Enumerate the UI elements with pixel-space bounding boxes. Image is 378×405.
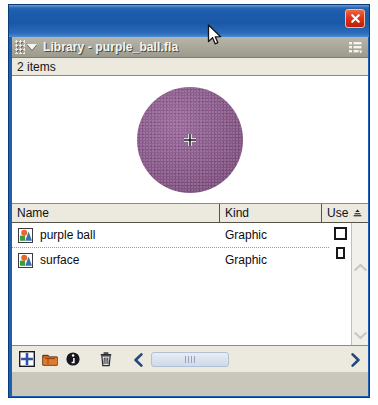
row-kind-label: Graphic — [220, 228, 322, 242]
use-checkbox[interactable] — [334, 227, 347, 240]
scrollbar-thumb-grip — [185, 356, 196, 363]
column-header-name[interactable]: Name — [12, 204, 220, 222]
chevron-right-icon — [350, 353, 361, 367]
vertical-scrollbar[interactable] — [351, 223, 368, 345]
new-symbol-button[interactable] — [19, 351, 35, 367]
library-list-header: Name Kind Use — [12, 204, 368, 223]
scroll-down-button[interactable] — [352, 327, 368, 343]
row-kind-label: Graphic — [220, 253, 322, 267]
panel-header[interactable]: Library - purple_ball.fla — [12, 37, 368, 58]
new-symbol-plus-icon — [19, 351, 35, 367]
chevron-up-icon — [354, 263, 367, 272]
library-panel: Library - purple_ball.fla — [12, 37, 368, 396]
column-header-use[interactable]: Use — [322, 204, 366, 222]
trash-can-icon — [98, 351, 114, 367]
horizontal-scroll-thumb[interactable] — [151, 352, 229, 367]
sort-ascending-icon[interactable] — [353, 209, 362, 218]
library-rows: purple ball Graphic — [12, 223, 351, 345]
item-count-strip: 2 items — [12, 58, 368, 76]
delete-button[interactable] — [98, 351, 114, 367]
application-window: Library - purple_ball.fla — [8, 4, 370, 398]
chevron-left-icon — [133, 353, 144, 367]
window-body: Library - purple_ball.fla — [12, 37, 368, 396]
column-header-name-label: Name — [17, 206, 49, 220]
panel-title: Library - purple_ball.fla — [43, 40, 178, 54]
properties-button[interactable] — [65, 351, 81, 367]
row-name-cell: surface — [12, 253, 220, 268]
table-row[interactable]: surface Graphic — [12, 248, 351, 273]
column-header-kind[interactable]: Kind — [220, 204, 322, 222]
drag-grip-icon[interactable] — [15, 40, 25, 54]
close-x-icon — [350, 13, 361, 24]
column-header-use-label: Use — [327, 206, 348, 220]
library-list-body: purple ball Graphic — [12, 223, 368, 345]
use-column-cells — [329, 223, 351, 345]
collapse-triangle-icon[interactable] — [27, 44, 37, 50]
new-folder-icon — [42, 351, 58, 367]
row-name-label: purple ball — [40, 228, 95, 242]
scroll-right-button[interactable] — [347, 351, 364, 368]
horizontal-scroll-track[interactable] — [147, 352, 347, 367]
symbol-preview-pane[interactable] — [12, 76, 368, 204]
graphic-symbol-icon — [18, 228, 33, 243]
chevron-down-icon — [354, 331, 367, 340]
horizontal-scrollbar[interactable] — [130, 350, 364, 369]
item-count-label: 2 items — [17, 60, 56, 74]
scroll-left-button[interactable] — [130, 351, 147, 368]
column-header-kind-label: Kind — [225, 206, 249, 220]
panel-options-menu-icon[interactable] — [348, 40, 363, 55]
row-name-label: surface — [40, 253, 79, 267]
window-titlebar[interactable] — [9, 5, 369, 37]
scroll-up-button[interactable] — [352, 259, 368, 275]
row-name-cell: purple ball — [12, 228, 220, 243]
table-row[interactable]: purple ball Graphic — [12, 223, 351, 248]
screenshot-root: Library - purple_ball.fla — [0, 0, 378, 405]
graphic-symbol-icon — [18, 253, 33, 268]
properties-info-icon — [65, 351, 81, 367]
library-toolbar — [12, 345, 368, 372]
registration-crosshair-icon — [184, 133, 197, 146]
window-close-button[interactable] — [345, 9, 365, 28]
new-folder-button[interactable] — [42, 351, 58, 367]
use-checkbox[interactable] — [336, 247, 345, 259]
